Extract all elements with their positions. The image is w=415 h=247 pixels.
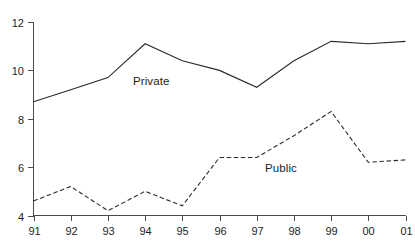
- x-axis-tick-labels: 9192939495969798990001: [28, 225, 412, 237]
- y-tick-label: 12: [12, 17, 24, 29]
- y-axis-ticks: [28, 23, 34, 217]
- x-axis-ticks: [35, 216, 407, 222]
- x-tick-label: 96: [214, 225, 226, 237]
- x-tick-label: 99: [325, 225, 337, 237]
- x-axis: 9192939495969798990001: [28, 216, 412, 238]
- series-label-public: Public: [265, 162, 297, 174]
- x-tick-label: 97: [251, 225, 263, 237]
- data-series-group: [34, 41, 406, 210]
- chart-plot-area: 4681012 9192939495969798990001: [0, 0, 415, 247]
- x-tick-label: 00: [362, 225, 374, 237]
- series-line-private: [34, 41, 406, 101]
- y-tick-label: 10: [12, 65, 24, 77]
- x-tick-label: 91: [28, 225, 40, 237]
- series-label-private: Private: [133, 75, 170, 87]
- y-tick-label: 4: [18, 211, 24, 223]
- x-tick-label: 98: [288, 225, 300, 237]
- y-tick-label: 8: [18, 114, 24, 126]
- y-axis: 4681012: [12, 17, 34, 223]
- y-axis-tick-labels: 4681012: [12, 17, 24, 223]
- y-tick-label: 6: [18, 162, 24, 174]
- line-chart: 4681012 9192939495969798990001 Private P…: [0, 0, 415, 247]
- series-line-public: [34, 111, 406, 210]
- x-tick-label: 01: [400, 225, 412, 237]
- x-tick-label: 92: [65, 225, 77, 237]
- x-tick-label: 93: [102, 225, 114, 237]
- x-tick-label: 95: [176, 225, 188, 237]
- x-tick-label: 94: [139, 225, 151, 237]
